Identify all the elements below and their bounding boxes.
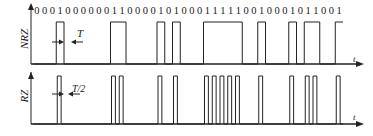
- arrow-right-icon: [59, 40, 64, 45]
- waveform-canvas: [0, 0, 373, 136]
- nrz-axis-arrow-icon: [28, 3, 34, 10]
- nrz-waveform: [33, 22, 343, 64]
- line-coding-diagram: 0001000000110000101000111110010001011001…: [0, 0, 373, 136]
- rz-waveform: [33, 76, 343, 124]
- nrz-time-arrow-icon: [356, 61, 364, 67]
- nrz-signal-path: [33, 22, 343, 64]
- arrow-left-icon: [68, 92, 73, 97]
- rz-time-arrow-icon: [356, 121, 364, 127]
- rz-axis-arrow-icon: [28, 72, 34, 79]
- arrow-left-icon: [71, 40, 76, 45]
- rz-signal-path: [33, 76, 343, 124]
